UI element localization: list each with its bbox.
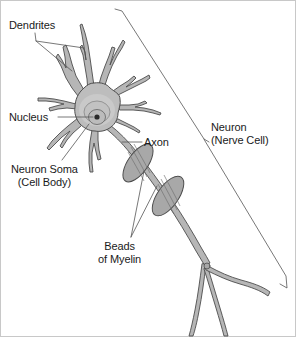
dendrite-lower-left	[47, 118, 81, 150]
leader-lines-group	[35, 9, 287, 288]
axon-terminal-left	[189, 264, 206, 336]
label-beads-of-myelin: Beads of Myelin	[98, 240, 141, 265]
label-neuron-line1: Neuron	[211, 121, 268, 134]
label-neuron-soma: Neuron Soma (Cell Body)	[11, 163, 78, 188]
dendrite-lower-right	[116, 119, 140, 133]
label-neuron-soma-line2: (Cell Body)	[11, 176, 78, 189]
neuron-diagram: Dendrites Nucleus Neuron Soma (Cell Body…	[0, 0, 297, 338]
axon-terminals-group	[189, 263, 270, 336]
dendrite-top	[80, 24, 94, 92]
dendrite-right-middle	[119, 101, 161, 115]
label-axon-text: Axon	[144, 136, 169, 149]
axon-branch-node	[204, 263, 210, 269]
label-neuron-line2: (Nerve Cell)	[211, 134, 268, 147]
label-dendrites-text: Dendrites	[9, 19, 55, 32]
dendrite-bottom	[89, 130, 101, 172]
neuron-soma	[75, 83, 121, 132]
nucleolus-dot	[94, 114, 99, 119]
label-axon: Axon	[144, 136, 169, 149]
axon-terminal-right	[206, 266, 270, 296]
label-neuron-nerve-cell: Neuron (Nerve Cell)	[211, 121, 268, 146]
label-dendrites: Dendrites	[9, 19, 55, 32]
dendrite-right-upper	[113, 75, 150, 96]
label-nucleus-text: Nucleus	[9, 111, 48, 124]
label-beads-line2: of Myelin	[98, 253, 141, 266]
dendrite-left	[38, 98, 77, 111]
label-beads-line1: Beads	[98, 240, 141, 253]
dendrite-top-right	[98, 40, 125, 88]
label-nucleus: Nucleus	[9, 111, 48, 124]
label-neuron-soma-line1: Neuron Soma	[11, 163, 78, 176]
dendrite-upper-left	[56, 45, 84, 96]
